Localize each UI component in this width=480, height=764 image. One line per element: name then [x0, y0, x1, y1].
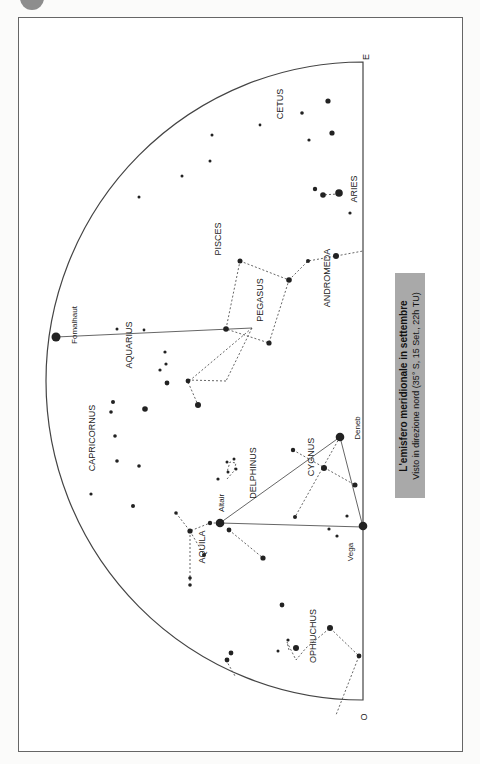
label-pisces: PISCES	[213, 222, 223, 255]
horizon-outline	[46, 62, 363, 700]
star-fomalhaut	[52, 333, 61, 342]
star-deneb	[336, 433, 345, 442]
label-fomalhaut: Fomalhaut	[70, 305, 79, 344]
label-ophiuchus: OPHIUCHUS	[308, 609, 318, 663]
label-pegasus: PEGASUS	[255, 278, 265, 322]
caption-subtitle: Visto in direzione nord (35° S, 15 Set.,…	[410, 292, 422, 479]
label-andromeda: ANDROMEDA	[322, 249, 332, 308]
star-altair	[216, 519, 225, 528]
star-vega	[359, 522, 368, 531]
label-east: E	[361, 54, 371, 60]
label-delphinus: DELPHINUS	[248, 447, 258, 499]
label-aries: ARIES	[349, 175, 359, 202]
label-aquarius: AQUARIUS	[124, 321, 134, 368]
label-vega: Vega	[346, 542, 355, 561]
label-west: O	[359, 713, 369, 720]
constellation-lines	[176, 194, 363, 715]
label-cygnus: CYGNUS	[306, 438, 316, 477]
caption-box: L'emisfero meridionale in settembre Vist…	[395, 273, 425, 498]
label-altair: Altair	[217, 494, 226, 513]
label-cetus: CETUS	[275, 89, 285, 120]
label-capricornus: CAPRICORNUS	[87, 405, 97, 472]
caption-title: L'emisfero meridionale in settembre	[398, 300, 410, 471]
label-deneb: Deneb	[353, 416, 362, 440]
asterism-lines	[56, 328, 363, 527]
label-aquila: AQUILA	[197, 530, 207, 563]
